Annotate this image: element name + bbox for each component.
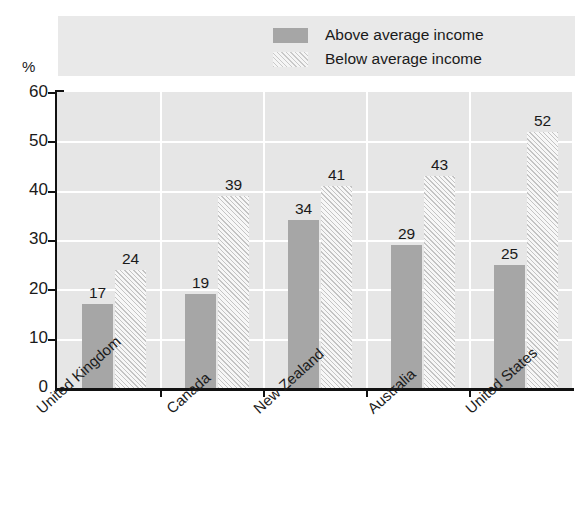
y-tick-40 bbox=[48, 191, 57, 193]
bar-value-above-united-states: 25 bbox=[501, 245, 518, 263]
bar-value-below-united-kingdom: 24 bbox=[122, 250, 139, 268]
y-axis-label-40: 40 bbox=[4, 180, 48, 200]
y-tick-30 bbox=[48, 240, 57, 242]
bar-value-below-united-states: 52 bbox=[534, 112, 551, 130]
chart-legend: Above average income Below average incom… bbox=[58, 16, 575, 76]
chart-title-cropped bbox=[0, 0, 585, 7]
y-tick-20 bbox=[48, 289, 57, 291]
bar-value-above-australia: 29 bbox=[398, 225, 415, 243]
gridline-50 bbox=[57, 141, 572, 143]
gridline-40 bbox=[57, 191, 572, 193]
legend-label-below-average: Below average income bbox=[325, 51, 482, 67]
y-tick-50 bbox=[48, 141, 57, 143]
y-axis-label-20: 20 bbox=[4, 279, 48, 299]
bar-value-below-canada: 39 bbox=[225, 176, 242, 194]
legend-label-above-average: Above average income bbox=[325, 27, 484, 43]
y-tick-10 bbox=[48, 339, 57, 341]
bar-value-below-australia: 43 bbox=[431, 156, 448, 174]
y-axis-label-60: 60 bbox=[4, 82, 48, 102]
y-tick-60 bbox=[48, 92, 57, 94]
group-divider-3 bbox=[366, 92, 368, 388]
solid-gray-swatch-icon bbox=[273, 28, 308, 43]
x-tick-1 bbox=[160, 388, 162, 397]
legend-item-above-average: Above average income bbox=[273, 24, 484, 46]
legend-item-below-average: Below average income bbox=[273, 48, 484, 70]
x-tick-3 bbox=[366, 388, 368, 397]
bar-value-above-canada: 19 bbox=[192, 274, 209, 292]
bar-below-canada[interactable]: 39 bbox=[218, 196, 249, 388]
y-axis-label-30: 30 bbox=[4, 229, 48, 249]
y-axis-unit-label: % bbox=[22, 58, 35, 75]
bar-value-below-new-zealand: 41 bbox=[328, 166, 345, 184]
bar-value-above-new-zealand: 34 bbox=[295, 200, 312, 218]
y-axis-label-10: 10 bbox=[4, 328, 48, 348]
group-divider-4 bbox=[469, 92, 471, 388]
bar-value-above-united-kingdom: 17 bbox=[89, 284, 106, 302]
group-divider-1 bbox=[160, 92, 162, 388]
plot-area: 17 24 19 39 34 41 29 43 25 52 bbox=[57, 92, 572, 388]
hatched-swatch-icon bbox=[273, 52, 308, 67]
bar-below-australia[interactable]: 43 bbox=[424, 176, 455, 388]
y-axis-label-0: 0 bbox=[4, 377, 48, 397]
legend-items: Above average income Below average incom… bbox=[273, 24, 484, 72]
y-axis-label-50: 50 bbox=[4, 131, 48, 151]
group-divider-2 bbox=[263, 92, 265, 388]
bar-below-united-kingdom[interactable]: 24 bbox=[115, 270, 146, 388]
